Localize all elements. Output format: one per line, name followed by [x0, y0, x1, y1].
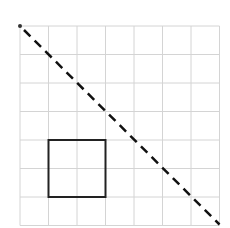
dashed-diagonal-line: [24, 30, 220, 225]
corner-dot: [18, 24, 22, 28]
grid-diagram: [0, 0, 230, 228]
